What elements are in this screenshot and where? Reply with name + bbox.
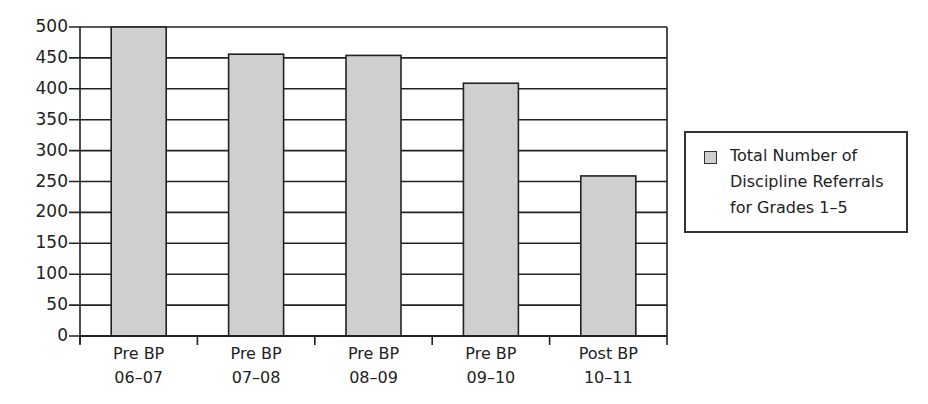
bar xyxy=(346,55,401,336)
y-tick-label: 150 xyxy=(36,232,68,252)
bar xyxy=(229,54,284,336)
legend-line-2: Discipline Referrals xyxy=(730,169,884,195)
x-tick-label: Pre BP09–10 xyxy=(436,342,546,390)
y-tick-label: 250 xyxy=(36,171,68,191)
x-tick-label: Pre BP06–07 xyxy=(84,342,194,390)
legend-label: Total Number of Discipline Referrals for… xyxy=(730,143,884,221)
bar xyxy=(111,27,166,336)
x-tick-label: Pre BP07–08 xyxy=(201,342,311,390)
bar xyxy=(463,83,518,336)
y-tick-label: 200 xyxy=(36,201,68,221)
y-tick-label: 500 xyxy=(36,16,68,36)
x-tick-label: Post BP10–11 xyxy=(553,342,663,390)
y-tick-label: 0 xyxy=(57,325,68,345)
legend: Total Number of Discipline Referrals for… xyxy=(684,131,908,233)
y-tick-label: 400 xyxy=(36,78,68,98)
y-tick-label: 50 xyxy=(46,294,68,314)
y-tick-label: 450 xyxy=(36,47,68,67)
legend-line-3: for Grades 1–5 xyxy=(730,195,884,221)
x-tick-label: Pre BP08–09 xyxy=(319,342,429,390)
legend-swatch-icon xyxy=(704,151,717,164)
y-tick-label: 100 xyxy=(36,263,68,283)
y-tick-label: 300 xyxy=(36,140,68,160)
bar xyxy=(581,176,636,336)
y-tick-label: 350 xyxy=(36,109,68,129)
legend-line-1: Total Number of xyxy=(730,143,884,169)
